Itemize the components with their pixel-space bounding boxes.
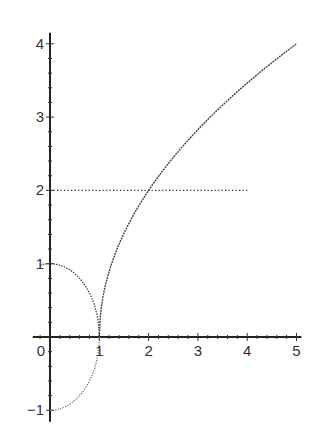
x-tick-label: 1 [95, 342, 103, 359]
x-tick-label: 0 [37, 342, 45, 359]
y-tick-label: 4 [36, 35, 44, 52]
x-tick-label: 3 [194, 342, 202, 359]
x-tick-label: 2 [144, 342, 152, 359]
chart: −11234012345 [0, 0, 313, 440]
y-tick-label: 1 [36, 255, 44, 272]
y-tick-label: 2 [36, 181, 44, 198]
y-tick-label: −1 [27, 401, 44, 418]
lower-arc-curve [50, 337, 99, 410]
tick-labels: −11234012345 [27, 35, 301, 419]
plot-series [40, 44, 296, 411]
x-tick-label: 4 [243, 342, 251, 359]
y-axis [46, 33, 54, 422]
y-tick-label: 3 [36, 108, 44, 125]
x-tick-label: 5 [292, 342, 300, 359]
x-axis [33, 333, 302, 341]
upper-arc-curve [40, 264, 99, 337]
